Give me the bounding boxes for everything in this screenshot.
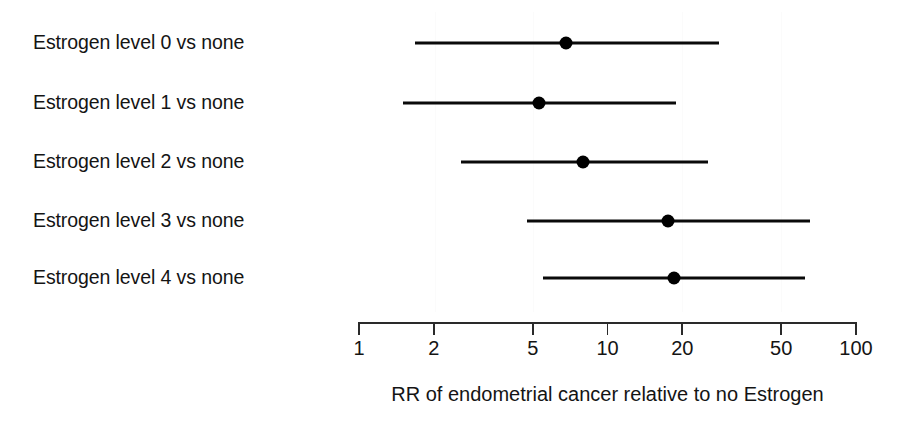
row-label-level-2: Estrogen level 2 vs none [33, 152, 244, 172]
row-label-level-0: Estrogen level 0 vs none [33, 33, 244, 53]
x-axis-tick-10 [607, 322, 609, 335]
x-axis-tick-2 [433, 322, 435, 335]
row-label-level-1: Estrogen level 1 vs none [33, 93, 244, 113]
x-axis-tick-1 [358, 322, 360, 335]
forest-plot: Estrogen level 0 vs none Estrogen level … [0, 0, 919, 427]
point-estimate-level-4 [667, 272, 680, 285]
x-axis-tick-label-20: 20 [671, 338, 693, 358]
point-estimate-level-1 [532, 97, 545, 110]
x-axis-tick-label-100: 100 [839, 338, 872, 358]
point-estimate-level-2 [577, 156, 590, 169]
x-axis-tick-label-50: 50 [770, 338, 792, 358]
x-axis-tick-label-5: 5 [527, 338, 538, 358]
x-axis-caption: RR of endometrial cancer relative to no … [391, 384, 823, 404]
point-estimate-level-3 [661, 215, 674, 228]
x-axis-tick-label-10: 10 [596, 338, 618, 358]
x-axis-tick-5 [532, 322, 534, 335]
x-axis-tick-100 [855, 322, 857, 335]
x-axis-tick-20 [681, 322, 683, 335]
gridline-artifact [781, 12, 782, 312]
gridline-artifact [435, 12, 436, 312]
x-axis-tick-label-1: 1 [353, 338, 364, 358]
x-axis-tick-50 [780, 322, 782, 335]
row-label-level-3: Estrogen level 3 vs none [33, 211, 244, 231]
row-label-level-4: Estrogen level 4 vs none [33, 268, 244, 288]
x-axis-tick-label-2: 2 [428, 338, 439, 358]
point-estimate-level-0 [559, 37, 572, 50]
